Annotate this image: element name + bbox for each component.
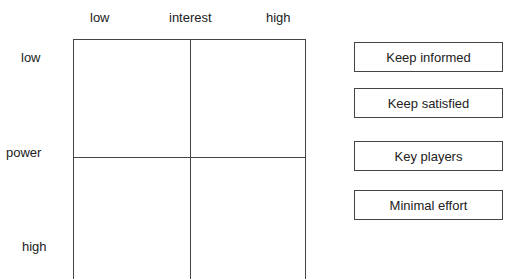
x-axis-low-label: low (90, 10, 110, 25)
grid-vertical-divider (190, 40, 191, 279)
grid-horizontal-divider (74, 157, 305, 158)
y-axis-low-label: low (21, 50, 41, 65)
y-axis-high-label: high (22, 239, 47, 254)
x-axis-high-label: high (266, 10, 291, 25)
strategy-box-keep-satisfied: Keep satisfied (354, 88, 503, 118)
strategy-box-key-players: Key players (354, 141, 503, 171)
power-interest-grid (73, 39, 306, 279)
x-axis-title: interest (169, 10, 212, 25)
y-axis-title: power (6, 145, 41, 160)
strategy-box-keep-informed: Keep informed (354, 42, 503, 72)
strategy-box-minimal-effort: Minimal effort (354, 190, 503, 220)
